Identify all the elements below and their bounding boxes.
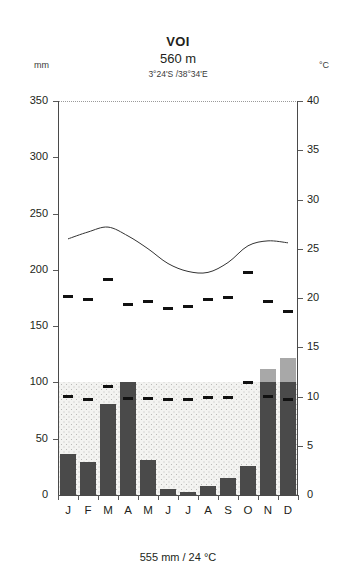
month-label: J	[58, 505, 78, 517]
month-label: M	[138, 505, 158, 517]
right-axis-tick	[298, 101, 303, 102]
left-axis-tick	[53, 326, 58, 327]
station-coordinates: 3°24'S /38°34'E	[0, 69, 356, 79]
summary-caption: 555 mm / 24 °C	[0, 551, 356, 563]
climate-diagram: VOI 560 m 3°24'S /38°34'E mm °C 50100150…	[0, 0, 356, 588]
month-tick	[258, 495, 259, 500]
left-axis-tick	[53, 382, 58, 383]
right-axis-tick	[298, 347, 303, 348]
right-axis-tick-label: 40	[307, 95, 319, 106]
month-label: M	[98, 505, 118, 517]
month-tick	[298, 495, 299, 500]
left-axis-tick	[53, 439, 58, 440]
left-axis-tick-label: 200	[2, 264, 48, 275]
right-axis-tick-label: 5	[307, 440, 313, 451]
left-axis-tick-label: 250	[2, 208, 48, 219]
right-axis-tick-label: 0	[307, 489, 313, 500]
month-tick	[278, 495, 279, 500]
month-tick	[118, 495, 119, 500]
station-elevation: 560 m	[0, 51, 356, 66]
right-axis-tick	[298, 200, 303, 201]
right-axis-tick-label: 15	[307, 341, 319, 352]
month-tick	[78, 495, 79, 500]
month-label: J	[178, 505, 198, 517]
left-axis-tick	[53, 214, 58, 215]
mean-temperature-curve	[58, 101, 298, 496]
page-title: VOI	[0, 34, 356, 49]
month-tick	[218, 495, 219, 500]
month-label: S	[218, 505, 238, 517]
month-tick	[198, 495, 199, 500]
right-axis-tick	[298, 298, 303, 299]
right-axis-tick	[298, 150, 303, 151]
left-axis-tick-label: 150	[2, 320, 48, 331]
month-tick	[238, 495, 239, 500]
month-label: A	[198, 505, 218, 517]
right-axis-tick-label: 10	[307, 391, 319, 402]
month-label: O	[238, 505, 258, 517]
right-axis-tick	[298, 249, 303, 250]
month-tick	[178, 495, 179, 500]
left-axis-tick	[53, 101, 58, 102]
right-axis-tick-label: 30	[307, 194, 319, 205]
left-axis-unit-label: mm	[34, 60, 49, 70]
plot-area: 501001502002503003500 0510152025303540 J…	[58, 101, 298, 496]
right-axis-tick-label: 35	[307, 144, 319, 155]
month-label: J	[158, 505, 178, 517]
right-axis-tick-label: 20	[307, 292, 319, 303]
left-axis-tick-label: 0	[2, 489, 48, 500]
month-label: F	[78, 505, 98, 517]
left-axis-tick	[53, 157, 58, 158]
left-axis-tick-label: 100	[2, 376, 48, 387]
right-axis-unit-label: °C	[319, 60, 329, 70]
right-axis-tick	[298, 446, 303, 447]
right-axis-tick	[298, 397, 303, 398]
temperature-curve-path	[68, 227, 288, 273]
left-axis-tick	[53, 270, 58, 271]
month-tick	[138, 495, 139, 500]
left-axis-tick-label: 300	[2, 151, 48, 162]
month-label: A	[118, 505, 138, 517]
right-axis-tick-label: 25	[307, 243, 319, 254]
month-label: D	[278, 505, 298, 517]
month-tick	[158, 495, 159, 500]
left-axis-tick-label: 50	[2, 433, 48, 444]
left-axis-tick-label: 350	[2, 95, 48, 106]
month-tick	[98, 495, 99, 500]
month-tick	[58, 495, 59, 500]
month-label: N	[258, 505, 278, 517]
